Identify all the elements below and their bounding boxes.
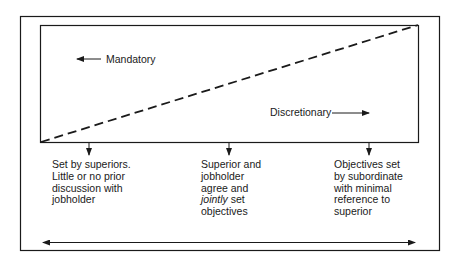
- column-left-line: Little or no prior: [52, 171, 131, 183]
- column-right-text: Objectives set by subordinate with minim…: [334, 159, 403, 218]
- jointly-emphasis: jointly: [201, 193, 228, 205]
- column-right-line: superior: [334, 206, 403, 218]
- column-middle-line: jobholder: [201, 171, 261, 183]
- column-left-line: jobholder: [52, 194, 131, 206]
- column-middle-line-rest: set: [228, 193, 245, 205]
- objective-setting-diagram: [0, 0, 457, 269]
- mandatory-label: Mandatory: [106, 54, 156, 66]
- column-middle-text: Superior and jobholder agree and jointly…: [201, 159, 261, 218]
- column-right-line: by subordinate: [334, 171, 403, 183]
- dashed-diagonal: [41, 25, 418, 142]
- column-left-text: Set by superiors. Little or no prior dis…: [52, 159, 131, 206]
- column-middle-line: objectives: [201, 206, 261, 218]
- discretionary-label: Discretionary: [270, 107, 331, 119]
